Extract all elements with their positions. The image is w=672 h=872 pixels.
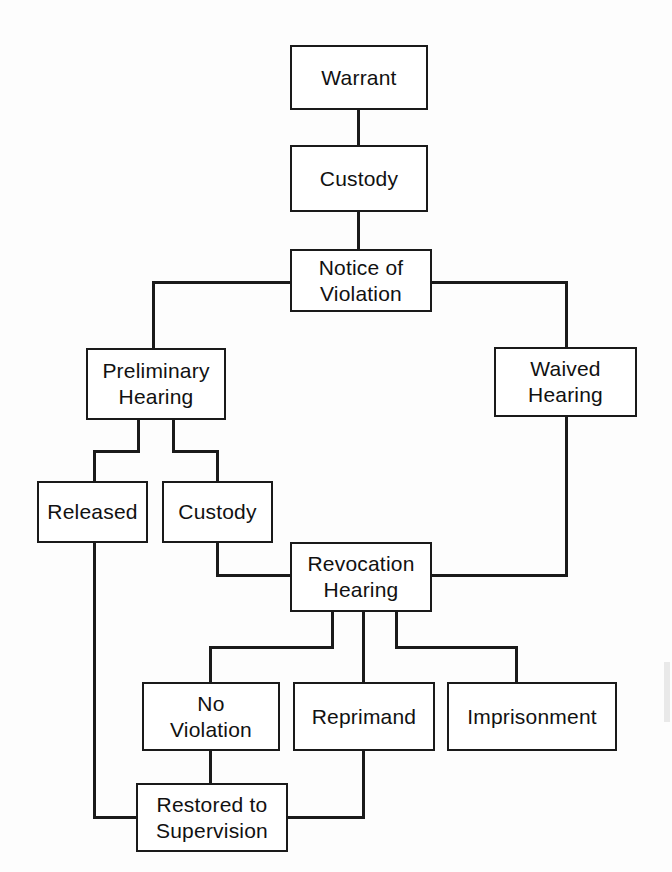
node-custody-top-label: Custody: [320, 166, 398, 192]
edge-revocation-noviolation-stub: [331, 610, 334, 648]
node-reprimand-label: Reprimand: [312, 704, 417, 730]
edge-waived-revocation-drop: [565, 415, 568, 577]
edge-custody-revocation-horizontal: [216, 574, 292, 577]
edge-custody-to-notice: [357, 210, 360, 251]
node-restored-to-supervision-label: Restored to Supervision: [156, 792, 268, 843]
node-notice-of-violation[interactable]: Notice of Violation: [290, 249, 432, 312]
node-revocation-hearing-label: Revocation Hearing: [307, 551, 414, 602]
edge-notice-right-vertical: [565, 281, 568, 349]
edge-prelim-custody-stub: [172, 418, 175, 452]
node-revocation-hearing[interactable]: Revocation Hearing: [290, 542, 432, 612]
edge-revocation-imprisonment-stub: [395, 610, 398, 648]
edge-notice-left-horizontal: [152, 281, 292, 284]
node-warrant-label: Warrant: [321, 65, 396, 91]
edge-prelim-custody-drop: [216, 450, 219, 483]
node-released-label: Released: [47, 499, 137, 525]
edge-notice-left-vertical: [152, 281, 155, 350]
edge-waived-revocation-horizontal: [430, 574, 568, 577]
node-reprimand[interactable]: Reprimand: [293, 682, 435, 751]
edge-prelim-released-drop: [93, 450, 96, 483]
node-warrant[interactable]: Warrant: [290, 45, 428, 110]
edge-notice-right-horizontal: [430, 281, 568, 284]
edge-revocation-noviolation-horizontal: [209, 646, 334, 649]
node-custody-top[interactable]: Custody: [290, 145, 428, 212]
node-notice-of-violation-label: Notice of Violation: [319, 255, 404, 306]
edge-warrant-to-custody: [357, 108, 360, 147]
edge-reprimand-restored-horizontal: [286, 816, 365, 819]
edge-reprimand-restored-drop: [362, 749, 365, 819]
edge-revocation-imprisonment-horizontal: [395, 646, 518, 649]
node-waived-hearing[interactable]: Waived Hearing: [494, 347, 637, 417]
node-preliminary-hearing[interactable]: Preliminary Hearing: [86, 348, 226, 420]
node-imprisonment-label: Imprisonment: [467, 704, 597, 730]
flowchart-canvas: Warrant Custody Notice of Violation Prel…: [0, 0, 672, 872]
edge-revocation-imprisonment-drop: [515, 646, 518, 684]
node-waived-hearing-label: Waived Hearing: [528, 356, 603, 407]
node-preliminary-hearing-label: Preliminary Hearing: [102, 358, 209, 409]
node-custody-mid-label: Custody: [178, 499, 256, 525]
node-imprisonment[interactable]: Imprisonment: [447, 682, 617, 751]
node-released[interactable]: Released: [37, 481, 148, 543]
edge-revocation-noviolation-drop: [209, 646, 212, 684]
edge-released-restored-horizontal: [93, 816, 140, 819]
edge-noviolation-restored: [209, 749, 212, 785]
node-no-violation-label: No Violation: [170, 691, 252, 742]
edge-released-restored-drop: [93, 541, 96, 819]
node-custody-mid[interactable]: Custody: [162, 481, 273, 543]
edge-revocation-reprimand: [362, 610, 365, 684]
edge-prelim-custody-horizontal: [172, 450, 219, 453]
edge-custody-revocation-drop: [216, 541, 219, 577]
page-edge-artifact: [664, 662, 670, 722]
node-restored-to-supervision[interactable]: Restored to Supervision: [136, 783, 288, 852]
edge-prelim-released-horizontal: [93, 450, 140, 453]
node-no-violation[interactable]: No Violation: [142, 682, 280, 751]
edge-prelim-released-stub: [137, 418, 140, 452]
